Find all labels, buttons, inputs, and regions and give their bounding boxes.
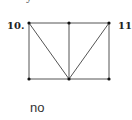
graph-figure xyxy=(0,0,132,120)
edge-CE xyxy=(69,23,109,79)
vertex-F xyxy=(107,77,110,80)
answer-text: no xyxy=(30,100,44,115)
vertex-D xyxy=(27,77,30,80)
vertex-A xyxy=(27,21,30,24)
vertex-C xyxy=(107,21,110,24)
vertex-E xyxy=(67,77,70,80)
graph-edges xyxy=(29,23,109,79)
vertex-B xyxy=(67,21,70,24)
edge-AE xyxy=(29,23,69,79)
